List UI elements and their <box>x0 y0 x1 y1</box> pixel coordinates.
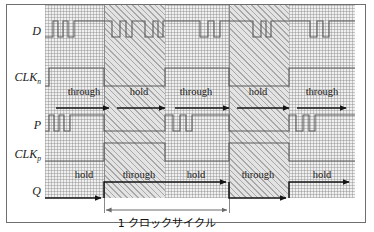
waveform-q <box>45 182 349 198</box>
timing-diagram-figure: D CLKn P CLKp Q <box>0 0 374 232</box>
state-q-4: through <box>242 169 275 180</box>
state-q-2: through <box>123 169 156 180</box>
state-p-2: hold <box>130 86 149 97</box>
state-p-1: through <box>68 86 101 97</box>
state-q-1: hold <box>75 169 94 180</box>
cycle-caption: 1 クロックサイクル <box>118 214 217 230</box>
waveform-p <box>45 115 355 131</box>
state-p-3: through <box>180 86 213 97</box>
waveform-d <box>45 21 355 37</box>
waveform-clkp <box>45 143 355 161</box>
state-q-5: hold <box>313 169 332 180</box>
state-p-5: through <box>306 86 339 97</box>
state-p-4: hold <box>249 86 268 97</box>
waveform-clkn <box>45 68 355 86</box>
state-q-3: hold <box>187 169 206 180</box>
waveform-layer <box>0 0 374 232</box>
